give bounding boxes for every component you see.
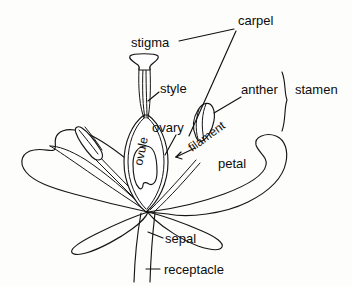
leader-anther (214, 97, 241, 113)
label-anther: anther (241, 82, 279, 97)
petal-right (148, 135, 287, 216)
label-receptacle: receptacle (164, 262, 224, 277)
label-petal: petal (218, 156, 246, 171)
receptacle (134, 213, 155, 282)
flower-diagram: carpel stigma style ovary ovule anther s… (0, 0, 352, 286)
stamen-brace (282, 72, 287, 131)
label-style: style (160, 81, 187, 96)
label-carpel: carpel (238, 13, 274, 28)
leader-ovary (165, 135, 176, 155)
style (139, 68, 151, 118)
label-stamen: stamen (295, 82, 338, 97)
anther-left (75, 127, 102, 160)
leader-sepal (148, 232, 163, 238)
stigma (130, 54, 159, 70)
flower-diagram-canvas: carpel stigma style ovary ovule anther s… (0, 0, 352, 286)
label-ovary: ovary (152, 120, 184, 135)
leader-stigma-to-carpel (179, 29, 234, 41)
leader-style (148, 92, 159, 101)
leader-filament-arrow2 (176, 157, 182, 159)
label-stigma: stigma (131, 35, 170, 50)
label-sepal: sepal (165, 231, 196, 246)
